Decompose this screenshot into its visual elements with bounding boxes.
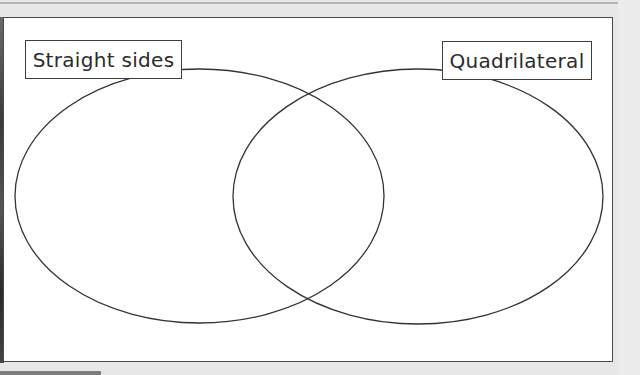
set-label-straight-sides: Straight sides <box>25 40 182 79</box>
venn-diagram-page: Straight sides Quadrilateral <box>0 0 640 375</box>
set-label-text: Straight sides <box>33 48 175 72</box>
set-label-text: Quadrilateral <box>449 49 584 73</box>
set-ellipse-straight-sides <box>15 69 384 323</box>
set-label-quadrilateral: Quadrilateral <box>442 41 592 80</box>
set-ellipse-quadrilateral <box>233 69 603 324</box>
